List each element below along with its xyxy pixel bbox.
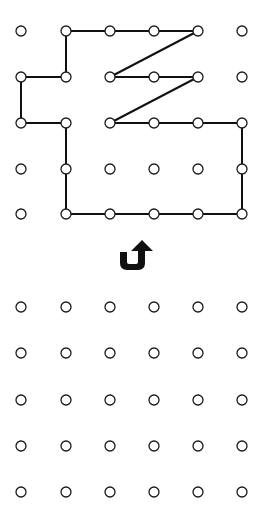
bottom-grid-dot-r2-c2: [105, 395, 115, 405]
bottom-grid-dot-r4-c1: [61, 487, 71, 497]
top-grid-dot-r0-c2: [105, 26, 115, 36]
top-grid-dot-r1-c4: [193, 72, 203, 82]
bottom-grid-dot-r3-c0: [16, 441, 26, 451]
top-grid-dot-r3-c3: [149, 164, 159, 174]
top-grid-dot-r4-c3: [149, 209, 159, 219]
bottom-grid-dot-r4-c0: [16, 487, 26, 497]
top-grid-dot-r4-c0: [16, 209, 26, 219]
top-grid-dot-r4-c1: [61, 209, 71, 219]
top-grid-dot-r3-c4: [193, 164, 203, 174]
dot-grid-diagram: [0, 0, 263, 528]
bottom-grid-dot-r1-c4: [193, 348, 203, 358]
top-grid-dot-r2-c0: [16, 118, 26, 128]
top-grid-dot-r3-c5: [237, 164, 247, 174]
top-grid-dot-r0-c4: [193, 26, 203, 36]
bottom-grid-dot-r1-c5: [237, 348, 247, 358]
bottom-grid-dot-r0-c4: [193, 302, 203, 312]
top-grid-dot-r1-c5: [237, 72, 247, 82]
top-grid-dot-r0-c1: [61, 26, 71, 36]
top-grid-dot-r1-c3: [149, 72, 159, 82]
bottom-grid-dot-r3-c1: [61, 441, 71, 451]
bottom-grid-dot-r1-c3: [149, 348, 159, 358]
bottom-grid-dot-r1-c0: [16, 348, 26, 358]
top-grid-dot-r0-c0: [16, 26, 26, 36]
top-grid-dot-r3-c1: [61, 164, 71, 174]
top-grid-dot-r0-c5: [237, 26, 247, 36]
bottom-grid-dot-r2-c0: [16, 395, 26, 405]
u-turn-up-arrow-icon: [120, 240, 153, 270]
top-grid-dot-r3-c2: [105, 164, 115, 174]
top-grid-dot-r2-c3: [149, 118, 159, 128]
bottom-grid-dot-r0-c5: [237, 302, 247, 312]
bottom-grid-dot-r2-c4: [193, 395, 203, 405]
top-grid-dot-r0-c3: [149, 26, 159, 36]
bottom-grid-dot-r4-c3: [149, 487, 159, 497]
top-grid-dot-r1-c1: [61, 72, 71, 82]
bottom-grid-dot-r4-c2: [105, 487, 115, 497]
bottom-grid-dot-r2-c3: [149, 395, 159, 405]
bottom-grid-dot-r0-c1: [61, 302, 71, 312]
bottom-grid-dot-r3-c4: [193, 441, 203, 451]
bottom-grid-dot-r1-c1: [61, 348, 71, 358]
top-grid-dot-r2-c2: [105, 118, 115, 128]
bottom-grid-dot-r4-c4: [193, 487, 203, 497]
bottom-grid-dot-r3-c5: [237, 441, 247, 451]
bottom-grid-dot-r3-c3: [149, 441, 159, 451]
bottom-dot-grid: [16, 302, 247, 497]
bottom-grid-dot-r4-c5: [237, 487, 247, 497]
top-grid-dot-r4-c4: [193, 209, 203, 219]
top-grid-dot-r4-c2: [105, 209, 115, 219]
bottom-grid-dot-r3-c2: [105, 441, 115, 451]
bottom-grid-dot-r2-c1: [61, 395, 71, 405]
bottom-grid-dot-r2-c5: [237, 395, 247, 405]
top-grid-dot-r2-c1: [61, 118, 71, 128]
bottom-grid-dot-r0-c3: [149, 302, 159, 312]
top-grid-dot-r1-c2: [105, 72, 115, 82]
top-grid-dot-r3-c0: [16, 164, 26, 174]
bottom-grid-dot-r0-c0: [16, 302, 26, 312]
top-grid-dot-r2-c5: [237, 118, 247, 128]
top-grid-dot-r1-c0: [16, 72, 26, 82]
bottom-grid-dot-r0-c2: [105, 302, 115, 312]
top-grid-dot-r4-c5: [237, 209, 247, 219]
bottom-grid-dot-r1-c2: [105, 348, 115, 358]
top-grid-dot-r2-c4: [193, 118, 203, 128]
top-grid-shape-outline: [21, 31, 242, 214]
